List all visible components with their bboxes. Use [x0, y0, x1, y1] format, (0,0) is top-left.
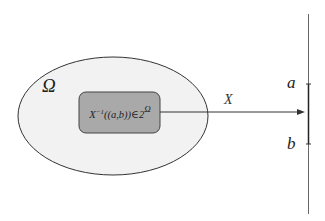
- tick-label-a: a: [287, 74, 296, 91]
- tick-label-b: b: [287, 135, 296, 152]
- preimage-power: Ω: [144, 104, 151, 114]
- preimage-superscript: −1: [96, 108, 104, 116]
- mapping-label: X: [224, 93, 233, 107]
- preimage-argument: ((a,b))∈2: [104, 109, 144, 120]
- arrow-head-icon: [297, 109, 305, 115]
- sample-space-label: Ω: [42, 76, 56, 95]
- preimage-label: X−1((a,b))∈2Ω: [80, 104, 160, 120]
- diagram-canvas: [0, 0, 325, 221]
